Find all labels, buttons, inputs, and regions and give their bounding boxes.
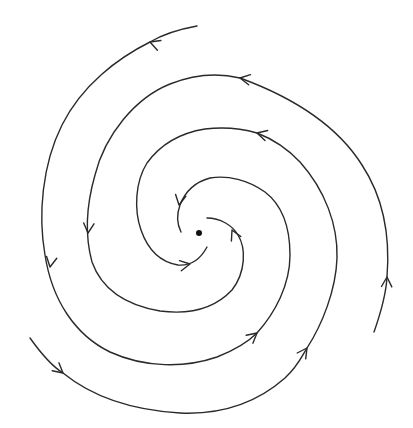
trajectory-arm-c [30,128,337,413]
equilibrium-point [196,230,202,236]
direction-arrows-group [47,41,392,374]
trajectories-group [30,26,388,413]
direction-arrow-icon [84,223,94,233]
trajectory-arm-a [42,26,290,365]
direction-arrow-icon [150,41,161,51]
phase-portrait-svg [0,0,413,428]
trajectory-arm-b [87,75,387,332]
phase-portrait-canvas: Phase portrait: stable spiral (spiral si… [0,0,413,428]
direction-arrow-icon [47,257,57,268]
